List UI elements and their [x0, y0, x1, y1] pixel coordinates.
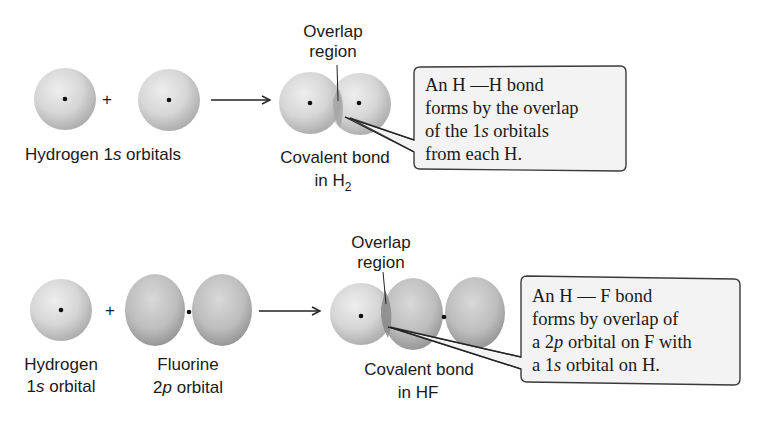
- fluorine-2p-lobe-left: [125, 274, 185, 346]
- product-label-line2: in HF: [398, 383, 439, 402]
- callout-line1: An H —H bond: [425, 75, 544, 95]
- product-label-line2: in H2: [315, 171, 352, 194]
- fluorine-label-line1: Fluorine: [157, 355, 218, 374]
- h2-panel: + Overlap region Hydrogen 1s orbitals Co…: [25, 22, 626, 194]
- reactant-label: Hydrogen 1s orbitals: [25, 145, 181, 164]
- nucleus-dot: [187, 310, 192, 315]
- product-label-line1: Covalent bond: [364, 360, 474, 379]
- nucleus-dot: [359, 314, 364, 319]
- hydrogen-label-line1: Hydrogen: [24, 355, 98, 374]
- overlap-label-line2: region: [309, 42, 356, 61]
- callout-line2: forms by the overlap: [425, 98, 579, 118]
- nucleus-dot: [442, 315, 447, 320]
- callout-line3: of the 1s orbitals: [425, 121, 549, 141]
- plus-sign: +: [102, 90, 112, 109]
- nucleus-dot: [308, 101, 313, 106]
- product-label-line1: Covalent bond: [280, 148, 390, 167]
- nucleus-dot: [357, 101, 362, 106]
- overlap-label-line1: Overlap: [351, 233, 411, 252]
- overlap-label-line2: region: [357, 253, 404, 272]
- overlap-label-line1: Overlap: [303, 22, 363, 41]
- orbital-overlap-diagram: + Overlap region Hydrogen 1s orbitals Co…: [0, 0, 762, 421]
- nucleus-dot: [63, 97, 68, 102]
- callout-line4: a 1s orbital on H.: [532, 355, 660, 375]
- callout-line4: from each H.: [425, 144, 522, 164]
- fluorine-2p-lobe-right: [192, 274, 252, 346]
- fluorine-label-line2: 2p orbital: [153, 378, 223, 397]
- hf-fluorine-lobe-right: [445, 277, 505, 349]
- hf-panel: + Overlap region Hydrogen 1s orbital Flu…: [24, 233, 740, 402]
- hydrogen-label-line2: 1s orbital: [27, 377, 96, 396]
- nucleus-dot: [59, 308, 64, 313]
- callout-line3: a 2p orbital on F with: [532, 332, 692, 352]
- callout-line1: An H — F bond: [532, 286, 653, 306]
- plus-sign: +: [105, 301, 115, 320]
- nucleus-dot: [167, 98, 172, 103]
- callout-line2: forms by overlap of: [532, 309, 679, 329]
